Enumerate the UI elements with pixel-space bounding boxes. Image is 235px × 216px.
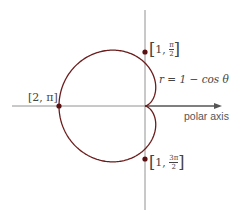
- polar-plot: [0, 0, 235, 216]
- point-1-pi-over-2: [142, 49, 147, 54]
- point-1-3pi-over-2: [142, 156, 147, 161]
- equation-label: r = 1 − cos θ: [159, 73, 229, 85]
- point-2-pi: [56, 103, 61, 108]
- label-2-pi: [2, π]: [28, 91, 58, 104]
- polar-axis-label: polar axis: [184, 110, 229, 122]
- label-1-pi-over-2: [1, π2]: [149, 40, 180, 59]
- label-1-3pi-over-2: [1, 3π2]: [149, 153, 185, 172]
- polar-axis-arrow-icon: [214, 103, 222, 109]
- cardioid-diagram: [2, π] [1, π2] r = 1 − cos θ polar axis …: [0, 0, 235, 216]
